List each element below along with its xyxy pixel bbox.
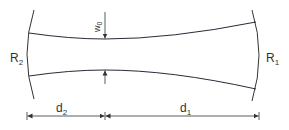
diagram-svg: R2 R1 w0 d2 d1 xyxy=(0,0,289,130)
resonator-diagram: R2 R1 w0 d2 d1 xyxy=(0,0,289,130)
label-d1: d1 xyxy=(180,101,192,117)
label-r1: R1 xyxy=(266,51,280,67)
mirror-right-arc xyxy=(252,10,259,101)
label-d2: d2 xyxy=(56,101,68,117)
mirror-left-arc xyxy=(27,10,34,99)
svg-text:w0: w0 xyxy=(92,22,103,34)
label-r2: R2 xyxy=(10,51,24,67)
label-w0: w0 xyxy=(92,22,103,34)
beam-envelope-bottom xyxy=(29,70,256,89)
beam-envelope-top xyxy=(29,22,256,39)
